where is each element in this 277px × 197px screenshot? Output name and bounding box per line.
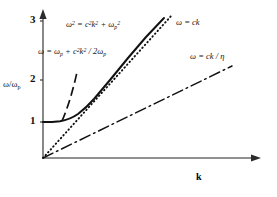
eq4-equals: = [198,51,204,61]
y-tick-label-1: 1 [30,115,36,126]
eq2-omega: ω [38,46,44,56]
curve-quadratic-approximation [62,72,77,121]
y-axis-subscript-p: p [17,84,20,90]
curve-refractive-index-line [43,66,232,158]
dispersion-relation-figure: 3 2 1 ω/ωp k ω2 = c2k2 + ωp2 ω = ωp + c2… [0,0,277,197]
x-axis-arrowhead [251,154,261,161]
eq1-omega-p-exponent: 2 [117,20,120,26]
annotation-dispersion-equation: ω2 = c2k2 + ωp2 [66,20,120,29]
y-axis-label: ω/ωp [3,80,20,89]
eq4-eta: η [220,51,224,61]
eq1-k-exponent: 2 [95,20,98,26]
plot-canvas [0,0,277,197]
eq2-k-exponent: 2 [83,47,86,53]
curve-electromagnetic-dispersion [43,18,164,122]
eq2-plus: + [65,46,71,56]
y-axis-arrowhead [39,9,46,19]
y-tick-label-2: 2 [30,73,36,84]
annotation-eta-line-label: ω = ck / η [190,52,224,61]
annotation-light-line-label: ω = ck [176,18,200,27]
eq3-ck: ck [192,17,200,27]
eq2-equals: = [46,46,52,56]
curve-light-line [43,15,172,158]
eq1-plus: + [100,19,106,29]
eq1-equals: = [77,19,83,29]
annotation-approximation-equation: ω = ωp + c2k2 / 2ωp [38,47,106,56]
eq2-denominator-subscript-p: p [103,51,106,57]
eq2-subscript-p: p [60,51,63,57]
eq3-omega: ω [176,17,182,27]
eq3-equals: = [184,17,190,27]
eq1-omega-exponent: 2 [72,20,75,26]
eq4-divide: / [216,51,218,61]
eq2-c-exponent: 2 [77,47,80,53]
eq2-divide: / 2 [88,46,97,56]
eq1-c-exponent: 2 [89,20,92,26]
y-tick-label-3: 3 [30,14,36,25]
eq4-omega: ω [190,51,196,61]
eq4-ck: ck [206,51,214,61]
x-axis-label: k [196,172,202,182]
